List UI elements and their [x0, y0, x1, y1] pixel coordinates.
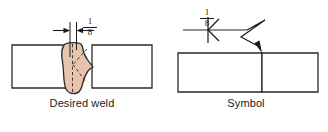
weld-bead-profile — [62, 43, 93, 94]
root-opening-fraction-left: 1 8 — [83, 17, 97, 37]
leader-arrowhead — [255, 41, 263, 54]
fraction-denominator: 8 — [83, 28, 97, 37]
root-opening-fraction-right: 1 8 — [200, 8, 214, 28]
leader-line-path — [241, 20, 265, 46]
caption-desired-weld: Desired weld — [0, 97, 164, 109]
caption-symbol: Symbol — [164, 97, 328, 109]
fraction-numerator: 1 — [200, 8, 214, 17]
fraction-denominator: 8 — [200, 19, 214, 28]
welding-diagram-figure: 1 8 1 8 Desired weld Symbol — [0, 0, 328, 132]
plate-right-outline — [92, 45, 152, 88]
symbol-leg-lower — [208, 30, 219, 41]
desired-weld-view — [12, 22, 152, 94]
symbol-view — [178, 17, 318, 92]
symbol-plate-left — [178, 53, 262, 92]
welding-diagram-svg — [0, 0, 328, 132]
arrowhead-left — [64, 28, 71, 33]
symbol-plate-right — [262, 53, 318, 92]
leader-line — [241, 20, 265, 46]
fraction-numerator: 1 — [83, 17, 97, 26]
base-plate-right — [92, 45, 152, 88]
